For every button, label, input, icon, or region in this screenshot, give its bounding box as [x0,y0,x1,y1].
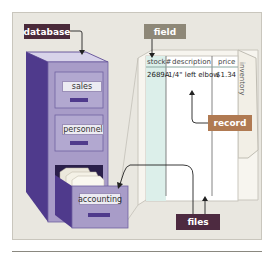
inventory-tab-label: inventory [238,62,246,95]
record-label: record [208,115,252,131]
drawer-handle [70,98,88,102]
drawer-label-personnel: personnel [62,124,104,135]
column-header-description: description [172,58,211,66]
cell-price: $1.34 [216,71,236,79]
drawer-label-sales: sales [62,81,102,92]
field-label: field [144,24,186,39]
cabinet-side [26,52,48,222]
database-arrow [70,31,82,52]
database-label: database [24,24,70,39]
column-header-stock: stock# [147,58,171,66]
perspective-line [120,58,138,190]
files-label: files [176,214,220,230]
cell-description: 1/4" left elbow [168,71,219,79]
bottom-rule [12,251,262,252]
cell-stock: 2689A [147,71,170,79]
drawer-handle [70,141,88,145]
drawer-label-accounting: accounting [79,193,121,205]
drawer-handle [88,213,110,217]
column-header-price: price [218,58,235,66]
